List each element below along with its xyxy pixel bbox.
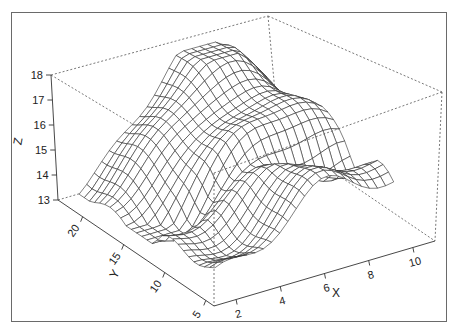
z-tick-label: 16 (34, 119, 46, 131)
z-tick-label: 17 (32, 94, 44, 106)
x-tick-label: 2 (234, 307, 243, 320)
y-tick-label: 20 (65, 222, 82, 239)
y-axis-label: Y (106, 267, 122, 281)
y-tick-label: 15 (106, 250, 123, 267)
y-tick-label: 5 (190, 308, 203, 320)
x-tick-label: 10 (407, 254, 422, 269)
x-axis-label: X (332, 286, 340, 300)
z-axis: 131415161718 (31, 69, 58, 206)
z-tick-label: 14 (36, 169, 48, 181)
x-tick-label: 6 (322, 281, 331, 294)
z-axis-label: Z (11, 136, 26, 146)
x-tick-label: 4 (278, 294, 287, 307)
x-tick-label: 8 (366, 268, 375, 281)
wireframe-surface (79, 42, 394, 268)
z-tick-label: 15 (35, 144, 47, 156)
y-tick-label: 10 (147, 278, 164, 295)
z-tick-label: 18 (31, 69, 43, 81)
surface-plot: 131415161718 5101520 246810 Z Y X (0, 0, 457, 331)
z-tick-label: 13 (38, 194, 50, 206)
